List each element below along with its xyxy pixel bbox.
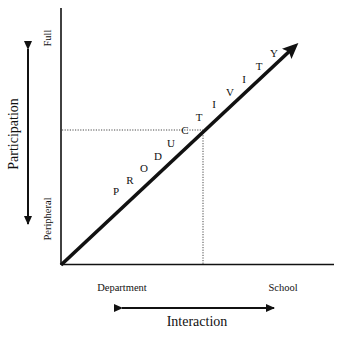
x-axis-title: Interaction bbox=[167, 314, 228, 329]
diagonal-letter: Y bbox=[270, 47, 278, 59]
diagonal-letter: T bbox=[256, 60, 263, 72]
diagonal-letter: R bbox=[126, 174, 134, 186]
diagonal-letter: C bbox=[181, 124, 188, 136]
x-axis-low-label: Department bbox=[97, 282, 147, 293]
y-axis-low-label: Peripheral bbox=[42, 197, 53, 240]
productivity-label: P R O D U C T I V I T Y bbox=[113, 47, 278, 197]
productivity-arrow bbox=[61, 47, 294, 265]
diagonal-letter: I bbox=[242, 73, 246, 85]
diagonal-letter: V bbox=[226, 86, 234, 98]
productivity-diagram: P R O D U C T I V I T Y Full Peripheral … bbox=[0, 0, 342, 338]
diagonal-letter: I bbox=[212, 98, 216, 110]
diagonal-letter: D bbox=[154, 150, 162, 162]
diagonal-letter: T bbox=[196, 111, 203, 123]
y-axis-high-label: Full bbox=[42, 29, 53, 46]
diagonal-letter: P bbox=[113, 185, 119, 197]
x-axis-high-label: School bbox=[268, 282, 297, 293]
diagonal-letter: U bbox=[167, 137, 175, 149]
diagonal-letter: O bbox=[140, 162, 148, 174]
y-axis-title: Participation bbox=[6, 98, 21, 170]
diagram-canvas: P R O D U C T I V I T Y Full Peripheral … bbox=[0, 0, 342, 338]
